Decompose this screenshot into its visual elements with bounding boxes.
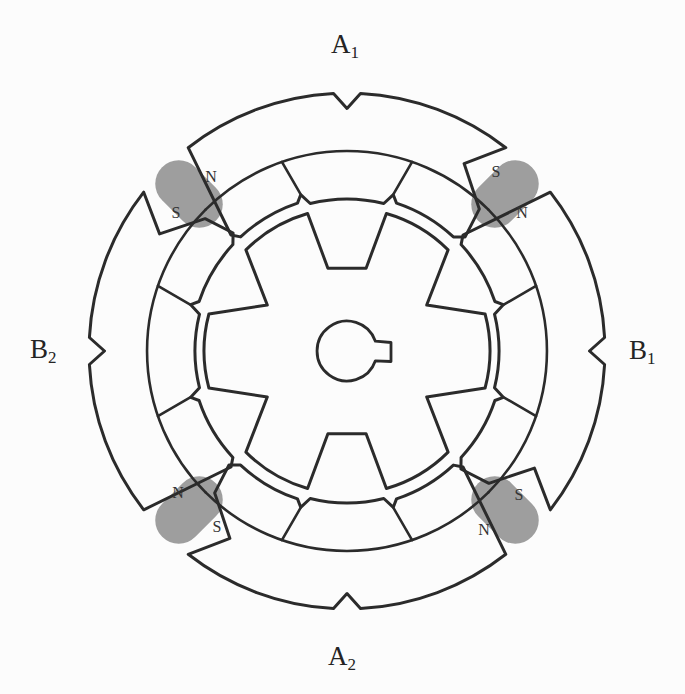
stator-quadrant-left xyxy=(89,192,233,510)
phase-a1-base: A xyxy=(331,29,351,59)
stepper-motor-figure: A1 A2 B1 B2 N S S N N S S N xyxy=(0,0,685,694)
stator-pole-sides-bottom xyxy=(282,508,412,540)
magnet-pole-label-se-n: N xyxy=(478,521,490,538)
stator-pole-sides-top xyxy=(282,162,412,194)
stator-quadrant-outline-left xyxy=(89,192,233,510)
phase-a1-subscript: 1 xyxy=(351,43,360,62)
shaft-bore xyxy=(317,321,391,381)
rotor-outline xyxy=(204,214,490,489)
stator-shoulder-arc-top xyxy=(206,151,489,210)
phase-b2-base: B xyxy=(30,334,48,364)
phase-b2-subscript: 2 xyxy=(48,348,57,367)
stator-shoulder-arc-right xyxy=(488,210,547,493)
stator-shoulder-arc-left xyxy=(147,210,206,493)
phase-a2-base: A xyxy=(328,641,348,671)
stator-pole-sides-right xyxy=(504,286,536,416)
phase-a2-subscript: 2 xyxy=(348,655,357,674)
stator-quadrant-outline-bottom xyxy=(188,465,506,609)
diagram-labels: A1 A2 B1 B2 N S S N N S S N xyxy=(30,29,656,674)
phase-label-a1: A1 xyxy=(331,29,359,62)
phase-b1-subscript: 1 xyxy=(647,349,656,368)
permanent-magnet-bottom-right xyxy=(462,467,549,554)
magnet-pole-label-ne-n: N xyxy=(516,204,528,221)
phase-b1-base: B xyxy=(629,335,647,365)
stator-shoulder-arc-bottom xyxy=(206,492,489,551)
phase-label-b1: B1 xyxy=(629,335,656,368)
motor-drawing xyxy=(89,93,604,608)
stator-quadrant-outline-top xyxy=(188,93,506,237)
phase-label-a2: A2 xyxy=(328,641,356,674)
magnet-pole-label-nw-n: N xyxy=(205,168,217,185)
magnet-pole-label-ne-s: S xyxy=(492,163,501,180)
magnet-pole-label-sw-n: N xyxy=(172,484,184,501)
stator-quadrant-outline-right xyxy=(461,192,605,510)
stepper-motor-cross-section-diagram: A1 A2 B1 B2 N S S N N S S N xyxy=(0,0,685,694)
magnet-pole-label-nw-s: S xyxy=(172,204,181,221)
stator-quadrant-right xyxy=(461,192,605,510)
phase-label-b2: B2 xyxy=(30,334,57,367)
stator-pole-sides-left xyxy=(158,286,190,416)
magnet-pole-label-se-s: S xyxy=(515,486,524,503)
magnet-pole-label-sw-s: S xyxy=(213,518,222,535)
stator-quadrant-top xyxy=(188,93,506,237)
stator-quadrant-bottom xyxy=(188,465,506,609)
